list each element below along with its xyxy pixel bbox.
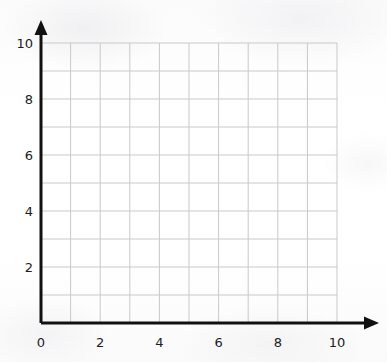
y-axis-arrowhead [35,20,48,35]
x-tick-label: 0 [37,336,45,349]
y-tick-label: 10 [16,37,33,50]
x-tick-label: 2 [96,336,104,349]
y-tick-label: 6 [25,149,33,162]
x-tick-label: 8 [274,336,282,349]
y-tick-label: 4 [25,205,33,218]
figure-canvas: 0246810 246810 [0,0,387,362]
x-axis-arrowhead [364,317,379,330]
coordinate-plane [0,0,387,362]
x-tick-label: 10 [329,336,346,349]
axes [35,20,380,330]
y-tick-label: 8 [25,93,33,106]
x-tick-label: 4 [155,336,163,349]
y-tick-label: 2 [25,261,33,274]
x-tick-label: 6 [214,336,222,349]
gridlines [41,43,337,323]
